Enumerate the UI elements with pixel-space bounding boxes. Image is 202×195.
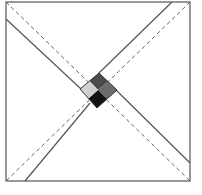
- solid-line-2: [116, 90, 190, 163]
- center-diamond: [80, 73, 117, 108]
- solid-line-1: [6, 19, 81, 89]
- solid-line-3: [99, 2, 172, 73]
- diagram-canvas: [0, 0, 202, 195]
- solid-line-4: [25, 103, 90, 181]
- diagram-svg: [0, 0, 202, 195]
